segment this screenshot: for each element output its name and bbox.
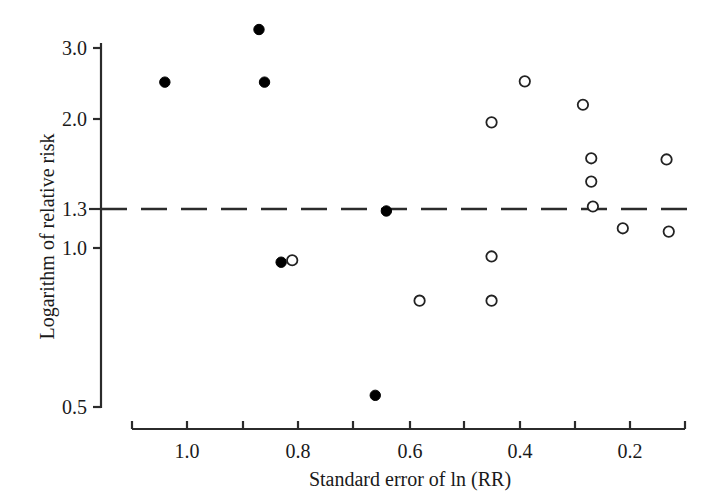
data-point-open — [664, 226, 674, 236]
x-axis-title: Standard error of ln (RR) — [130, 468, 690, 491]
data-points-group — [160, 24, 674, 400]
data-point-filled — [381, 206, 391, 216]
data-point-open — [586, 176, 596, 186]
data-point-filled — [254, 24, 264, 34]
y-axis-title: Logarithm of relative risk — [36, 72, 59, 402]
data-point-open — [486, 117, 496, 127]
data-point-filled — [276, 257, 286, 267]
x-axis-tick-label: 0.2 — [618, 441, 643, 461]
x-axis-tick-label: 1.0 — [175, 441, 200, 461]
x-axis-tick-label: 0.8 — [286, 441, 311, 461]
x-axis-tick-label: 0.6 — [398, 441, 423, 461]
plot-canvas — [0, 0, 719, 502]
data-point-open — [287, 255, 297, 265]
x-axis-tick-label: 0.4 — [508, 441, 533, 461]
data-point-filled — [259, 77, 269, 87]
data-point-open — [618, 223, 628, 233]
y-axis-tick-label: 3.0 — [40, 38, 87, 58]
funnel-plot-figure: 3.02.01.31.00.5 1.00.80.60.40.2 Logarith… — [0, 0, 719, 502]
data-point-open — [578, 100, 588, 110]
data-point-open — [661, 154, 671, 164]
data-point-filled — [160, 77, 170, 87]
data-point-open — [486, 251, 496, 261]
data-point-open — [486, 295, 496, 305]
data-point-open — [586, 153, 596, 163]
axis-group — [89, 43, 685, 429]
data-point-open — [588, 201, 598, 211]
data-point-filled — [370, 390, 380, 400]
data-point-open — [414, 295, 424, 305]
data-point-open — [520, 76, 530, 86]
